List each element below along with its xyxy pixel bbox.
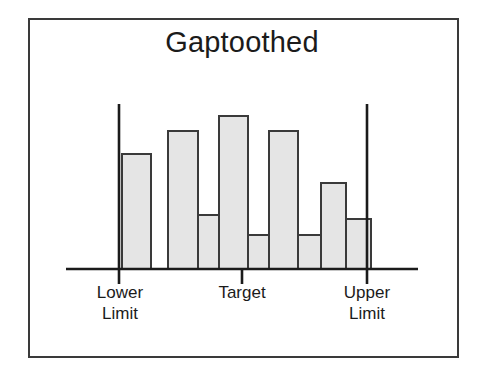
histogram-figure: Gaptoothed Lower Limit Target Upper Limi…: [0, 0, 484, 379]
axis-label-target: Target: [188, 282, 296, 303]
bar-5: [269, 131, 298, 269]
bar-1: [168, 131, 198, 269]
isolated-bar: [122, 154, 151, 269]
bar-4: [248, 235, 269, 269]
bar-2: [198, 215, 219, 269]
axis-label-upper-limit: Upper Limit: [313, 282, 421, 324]
bar-6: [298, 235, 321, 269]
histogram-bars: [122, 116, 371, 269]
bar-3: [219, 116, 248, 269]
axis-label-lower-limit: Lower Limit: [66, 282, 174, 324]
bar-7: [321, 183, 346, 269]
